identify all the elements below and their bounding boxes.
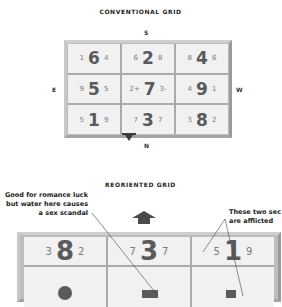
annotation-leader-lines [0, 0, 281, 296]
